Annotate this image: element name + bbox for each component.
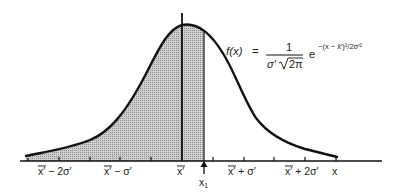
svg-text:x′: x′ bbox=[177, 165, 184, 177]
shaded-area bbox=[26, 25, 204, 161]
svg-text:x′ + σ′: x′ + σ′ bbox=[228, 165, 256, 177]
formula-lhs: f(x) bbox=[226, 45, 243, 57]
formula-denominator-sqrt: 2π bbox=[289, 58, 303, 70]
tick-labels: x′ − 2σ′ x′ − σ′ x′ x′ + σ′ x′ + 2σ′ x bbox=[38, 165, 338, 177]
tick-label-mean-minus-sigma: x′ − σ′ bbox=[104, 165, 132, 177]
tick-label-mean-plus-sigma: x′ + σ′ bbox=[228, 165, 256, 177]
formula-numerator: 1 bbox=[286, 41, 292, 53]
formula-equals: = bbox=[252, 45, 259, 57]
formula-base: e bbox=[309, 48, 315, 60]
x-axis-end-label: x bbox=[332, 165, 338, 177]
x1-arrow-icon bbox=[201, 161, 208, 174]
tick-label-mean-plus-2sigma: x′ + 2σ′ bbox=[285, 165, 319, 177]
svg-text:x′ − 2σ′: x′ − 2σ′ bbox=[38, 165, 72, 177]
svg-text:x′ + 2σ′: x′ + 2σ′ bbox=[285, 165, 319, 177]
formula-denominator-sigma: σ′ bbox=[267, 58, 277, 70]
normal-curve-diagram: x1 x′ − 2σ′ x′ − σ′ x′ x′ + σ′ x′ + 2σ′ … bbox=[0, 0, 400, 196]
svg-text:x′ − σ′: x′ − σ′ bbox=[104, 165, 132, 177]
tick-label-mean: x′ bbox=[177, 165, 185, 177]
tick-label-mean-minus-2sigma: x′ − 2σ′ bbox=[38, 165, 72, 177]
x1-label: x1 bbox=[199, 176, 208, 189]
density-formula: f(x) = 1 σ′ 2π e −(x − x̄′)²/2σ′² bbox=[226, 41, 363, 70]
formula-exponent: −(x − x̄′)²/2σ′² bbox=[318, 42, 363, 51]
